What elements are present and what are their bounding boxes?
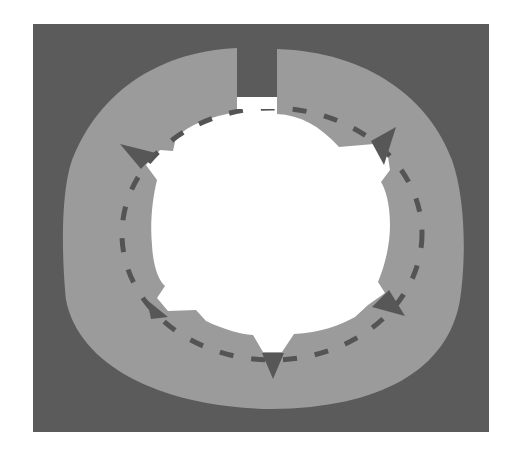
gap-cover [237,48,277,98]
circular-flow-diagram [0,0,526,467]
inner-gap-cover [237,97,277,109]
